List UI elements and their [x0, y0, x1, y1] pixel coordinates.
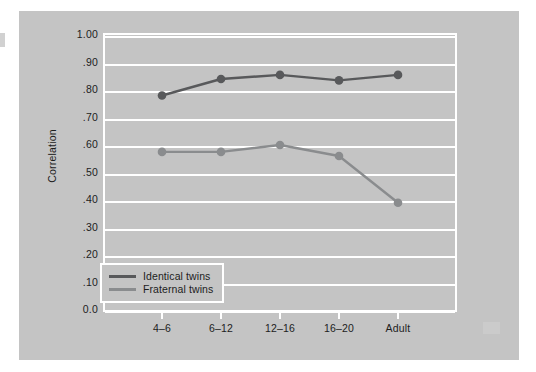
legend-swatch-fraternal-twins [109, 288, 136, 291]
y-tick-label: .80 [56, 84, 98, 95]
y-tick-label: .20 [56, 249, 98, 260]
x-tick-mark [338, 312, 340, 319]
chart-legend: Identical twins Fraternal twins [100, 263, 224, 303]
chart-figure: 0.0.10.20.30.40.50.60.70.80.901.00 Corre… [0, 0, 536, 372]
y-axis-title: Correlation [46, 96, 58, 216]
y-tick-label: .60 [56, 139, 98, 150]
x-tick-label: 6–12 [191, 322, 251, 334]
y-tick-label: .10 [56, 277, 98, 288]
data-point-marker [158, 91, 167, 100]
legend-swatch-identical-twins [109, 275, 136, 278]
x-tick-mark [220, 312, 222, 319]
data-point-marker [394, 71, 403, 80]
data-point-marker [217, 75, 226, 84]
legend-item: Identical twins [109, 270, 213, 283]
legend-item: Fraternal twins [109, 283, 213, 296]
page-edge-artifact [0, 33, 5, 47]
y-tick-label: 0.0 [56, 304, 98, 315]
x-tick-mark [279, 312, 281, 319]
data-point-marker [335, 76, 344, 85]
y-tick-label: 1.00 [56, 29, 98, 40]
x-tick-mark [161, 312, 163, 319]
data-point-marker [217, 148, 226, 157]
data-point-marker [158, 148, 167, 157]
x-tick-label: 4–6 [132, 322, 192, 334]
y-tick-label: .90 [56, 57, 98, 68]
paper-smudge [483, 322, 500, 334]
data-point-marker [276, 71, 285, 80]
x-tick-mark [397, 312, 399, 319]
x-axis: 4–66–1212–1616–20Adult [103, 312, 457, 342]
data-point-marker [394, 198, 403, 207]
series-line [162, 145, 398, 203]
data-point-marker [276, 141, 285, 150]
x-tick-label: 16–20 [309, 322, 369, 334]
data-point-marker [335, 152, 344, 161]
x-tick-label: Adult [368, 322, 428, 334]
legend-label-identical-twins: Identical twins [143, 271, 210, 282]
y-tick-label: .70 [56, 112, 98, 123]
y-tick-label: .50 [56, 167, 98, 178]
legend-label-fraternal-twins: Fraternal twins [143, 284, 213, 295]
y-tick-label: .40 [56, 194, 98, 205]
x-tick-label: 12–16 [250, 322, 310, 334]
y-tick-label: .30 [56, 222, 98, 233]
